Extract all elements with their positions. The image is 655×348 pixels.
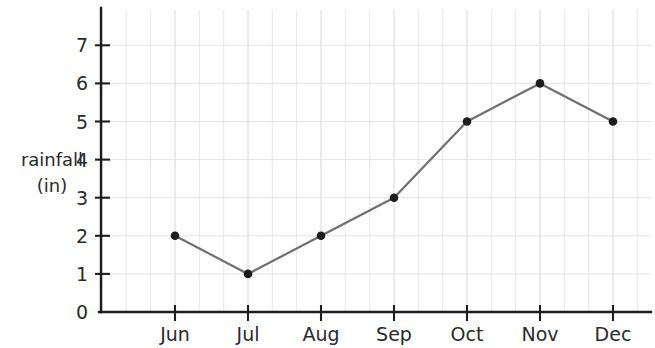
chart-background	[0, 0, 655, 348]
y-tick-label: 2	[76, 225, 88, 247]
y-axis-title-line1: rainfall	[21, 149, 83, 170]
y-tick-label: 1	[76, 263, 88, 285]
y-tick-label: 6	[76, 72, 88, 94]
y-axis-title-line2: (in)	[37, 175, 67, 196]
x-tick-label-jul: Jul	[236, 323, 260, 345]
rainfall-line-chart: 01234567 JunJulAugSepOctNovDec rainfall …	[0, 0, 655, 348]
data-point-oct	[463, 117, 472, 126]
data-point-jul	[244, 270, 253, 279]
data-point-dec	[609, 117, 618, 126]
y-tick-label: 0	[76, 301, 88, 323]
x-tick-label-sep: Sep	[376, 323, 412, 345]
x-tick-label-oct: Oct	[451, 323, 484, 345]
data-point-jun	[171, 232, 180, 241]
y-tick-label: 5	[76, 111, 88, 133]
data-point-nov	[536, 79, 545, 88]
y-tick-label: 7	[76, 34, 88, 56]
x-tick-label-jun: Jun	[159, 323, 190, 345]
y-tick-label: 3	[76, 187, 88, 209]
x-tick-label-dec: Dec	[595, 323, 632, 345]
x-tick-label-nov: Nov	[521, 323, 558, 345]
chart-container: 01234567 JunJulAugSepOctNovDec rainfall …	[0, 0, 655, 348]
data-point-aug	[317, 232, 326, 241]
data-point-sep	[390, 193, 399, 202]
x-tick-label-aug: Aug	[302, 323, 339, 345]
